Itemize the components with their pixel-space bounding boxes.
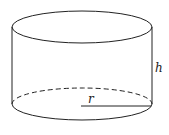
top-ellipse (12, 11, 152, 43)
bottom-ellipse-back (12, 88, 152, 104)
radius-label: r (88, 92, 95, 106)
height-label: h (155, 61, 163, 75)
cylinder-diagram: r h (0, 0, 169, 135)
